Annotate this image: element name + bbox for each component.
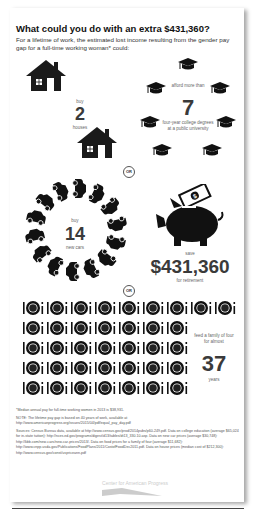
- plate-icon: [22, 299, 46, 317]
- plate-icon: [70, 299, 94, 317]
- college-noun: four-year college degrees at a public un…: [160, 120, 216, 131]
- cars-number: 14: [55, 224, 95, 245]
- publisher-logo-icon: [102, 488, 162, 498]
- plate-icon: [22, 319, 46, 337]
- plate-row: [22, 298, 238, 318]
- plate-icon: [166, 299, 190, 317]
- plate-icon: [166, 359, 190, 377]
- plate-icon: [118, 299, 142, 317]
- plate-icon: [22, 359, 46, 377]
- plate-icon: [22, 379, 46, 397]
- cars-verb: buy: [60, 218, 90, 224]
- plate-icon: [118, 339, 142, 357]
- food-number: 37: [194, 351, 234, 377]
- plate-icon: [46, 379, 70, 397]
- plate-icon: [22, 339, 46, 357]
- houses-number: 2: [65, 104, 95, 125]
- plate-icon: [166, 379, 190, 397]
- plate-icon: [46, 339, 70, 357]
- plate-icon: [70, 319, 94, 337]
- retirement-amount: $431,360: [140, 256, 240, 278]
- plate-icon: [214, 299, 238, 317]
- plate-icon: [46, 299, 70, 317]
- plate-icon: [94, 319, 118, 337]
- publisher-logo-text: Center for American Progress: [95, 480, 175, 486]
- college-number: 7: [165, 95, 211, 121]
- plate-icon: [142, 339, 166, 357]
- plate-icon: [70, 339, 94, 357]
- college-verb: afford more than: [165, 83, 211, 89]
- plate-icon: [94, 339, 118, 357]
- plate-icon: [190, 299, 214, 317]
- plate-icon: [142, 299, 166, 317]
- house-icon: [24, 58, 68, 92]
- plate-icon: [94, 299, 118, 317]
- plate-icon: [70, 359, 94, 377]
- house-icon: [75, 125, 119, 159]
- infographic-card: What could you do with an extra $431,360…: [10, 8, 244, 502]
- plate-icon: [94, 359, 118, 377]
- plate-icon: [46, 359, 70, 377]
- or-separator: OR: [123, 285, 135, 297]
- plate-icon: [142, 379, 166, 397]
- footnote-median-pay: *Median annual pay for full-time working…: [16, 408, 242, 414]
- footnotes: *Median annual pay for full-time working…: [16, 408, 242, 458]
- plate-grid: [22, 298, 238, 398]
- plate-icon: [142, 319, 166, 337]
- food-noun: years: [194, 377, 234, 383]
- plate-icon: [166, 319, 190, 337]
- infographic-title: What could you do with an extra $431,360…: [16, 23, 210, 34]
- plate-icon: [142, 359, 166, 377]
- plate-icon: [46, 319, 70, 337]
- plate-icon: [70, 379, 94, 397]
- retirement-noun: for retirement: [160, 278, 220, 284]
- plate-icon: [118, 319, 142, 337]
- food-verb: feed a family of four for almost: [194, 333, 234, 344]
- cars-noun: new cars: [55, 245, 95, 251]
- footnote-sources: Sources: Census Bureau data, available a…: [16, 429, 242, 457]
- plate-icon: [118, 379, 142, 397]
- footnote-note: NOTE: The lifetime pay gap is based on 4…: [16, 416, 242, 427]
- plate-icon: [166, 339, 190, 357]
- plate-icon: [94, 379, 118, 397]
- bottom-divider: [12, 508, 244, 509]
- infographic-subtitle: For a lifetime of work, the estimated lo…: [16, 36, 241, 52]
- plate-icon: [118, 359, 142, 377]
- piggy-bank-icon: $: [152, 184, 227, 248]
